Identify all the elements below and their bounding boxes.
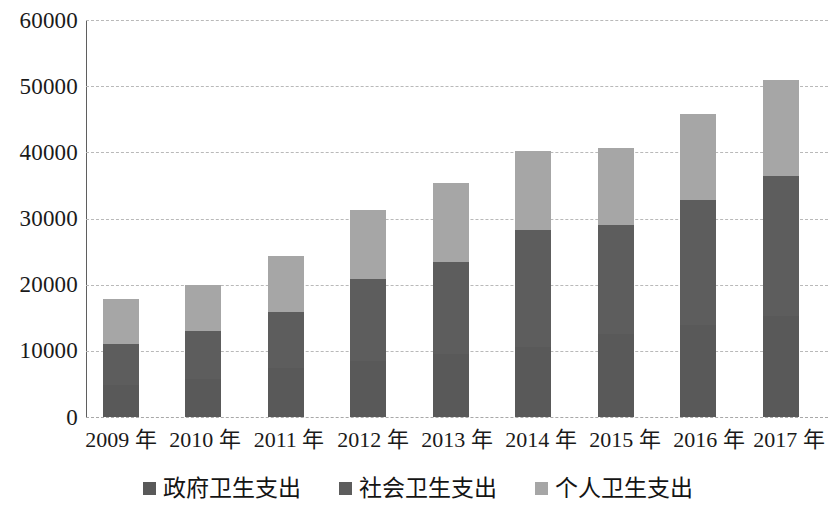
bar-segment	[515, 151, 551, 230]
bar-segment	[763, 80, 799, 177]
bar-segment	[680, 325, 716, 417]
bar-segment	[103, 299, 139, 344]
bar-segment	[598, 225, 634, 334]
bar-segment	[763, 316, 799, 417]
bar-group	[268, 256, 304, 417]
bar-segment	[515, 347, 551, 417]
chart-legend: 政府卫生支出 社会卫生支出 个人卫生支出	[0, 476, 836, 501]
bar-group	[763, 80, 799, 417]
bar-segment	[103, 385, 139, 417]
bar-segment	[185, 379, 221, 417]
legend-label-social: 社会卫生支出	[359, 476, 497, 501]
legend-item-personal: 个人卫生支出	[535, 476, 693, 501]
bar-segment	[185, 331, 221, 379]
bar-group	[103, 299, 139, 417]
gridline-60000	[86, 20, 828, 21]
bar-segment	[268, 312, 304, 368]
legend-label-government: 政府卫生支出	[163, 476, 301, 501]
y-axis-tick-0: 0	[0, 406, 78, 429]
bar-group	[598, 148, 634, 417]
bar-group	[185, 285, 221, 417]
y-axis-tick-20000: 20000	[0, 273, 78, 296]
y-axis-tick-60000: 60000	[0, 9, 78, 32]
legend-item-social: 社会卫生支出	[339, 476, 497, 501]
bar-segment	[433, 183, 469, 262]
bar-segment	[433, 262, 469, 354]
x-axis-tick-2017: 2017 年	[737, 427, 836, 453]
bar-segment	[350, 210, 386, 279]
bar-segment	[350, 279, 386, 362]
stacked-bar-chart: 60000 50000 40000 30000 20000 10000 0 20…	[0, 0, 836, 507]
bar-segment	[185, 285, 221, 332]
bar-group	[515, 151, 551, 417]
bar-group	[350, 210, 386, 417]
gridline-40000	[86, 152, 828, 153]
legend-item-government: 政府卫生支出	[143, 476, 301, 501]
bar-segment	[763, 176, 799, 316]
bar-segment	[433, 354, 469, 417]
bar-segment	[268, 368, 304, 417]
bar-group	[433, 183, 469, 417]
square-swatch-icon	[535, 482, 548, 495]
square-swatch-icon	[339, 482, 352, 495]
bar-segment	[350, 361, 386, 417]
y-axis-tick-40000: 40000	[0, 141, 78, 164]
square-swatch-icon	[143, 482, 156, 495]
y-axis-tick-10000: 10000	[0, 339, 78, 362]
bar-segment	[515, 230, 551, 347]
bar-segment	[268, 256, 304, 312]
y-axis-tick-50000: 50000	[0, 75, 78, 98]
gridline-baseline-0	[86, 417, 828, 418]
bar-segment	[680, 114, 716, 200]
bar-segment	[598, 334, 634, 417]
bar-segment	[103, 344, 139, 385]
bar-group	[680, 114, 716, 417]
y-axis-tick-30000: 30000	[0, 207, 78, 230]
plot-area	[86, 20, 828, 417]
bar-segment	[680, 200, 716, 325]
gridline-50000	[86, 86, 828, 87]
legend-label-personal: 个人卫生支出	[555, 476, 693, 501]
bar-segment	[598, 148, 634, 225]
y-axis-labels: 60000 50000 40000 30000 20000 10000 0	[0, 0, 78, 507]
